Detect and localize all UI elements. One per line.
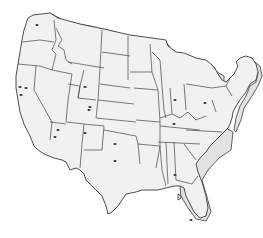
marker-california-2 bbox=[24, 87, 27, 89]
marker-california-1 bbox=[18, 86, 21, 88]
marker-oklahoma bbox=[113, 143, 116, 145]
marker-georgia bbox=[173, 174, 176, 176]
marker-northeast bbox=[203, 102, 206, 104]
us-outline bbox=[16, 13, 258, 218]
marker-texas bbox=[113, 160, 116, 162]
marker-washington bbox=[35, 24, 38, 26]
marker-ohio bbox=[172, 123, 175, 125]
marker-colorado-2 bbox=[87, 109, 90, 111]
marker-california-3 bbox=[19, 94, 22, 96]
marker-arizona-1 bbox=[56, 129, 59, 131]
marker-florida bbox=[189, 219, 192, 221]
marker-colorado-1 bbox=[88, 106, 91, 108]
marker-wyoming bbox=[83, 86, 86, 88]
marker-michigan bbox=[173, 99, 176, 101]
marker-new-mexico bbox=[83, 132, 86, 134]
us-map bbox=[0, 0, 263, 238]
marker-arizona-2 bbox=[53, 136, 56, 138]
